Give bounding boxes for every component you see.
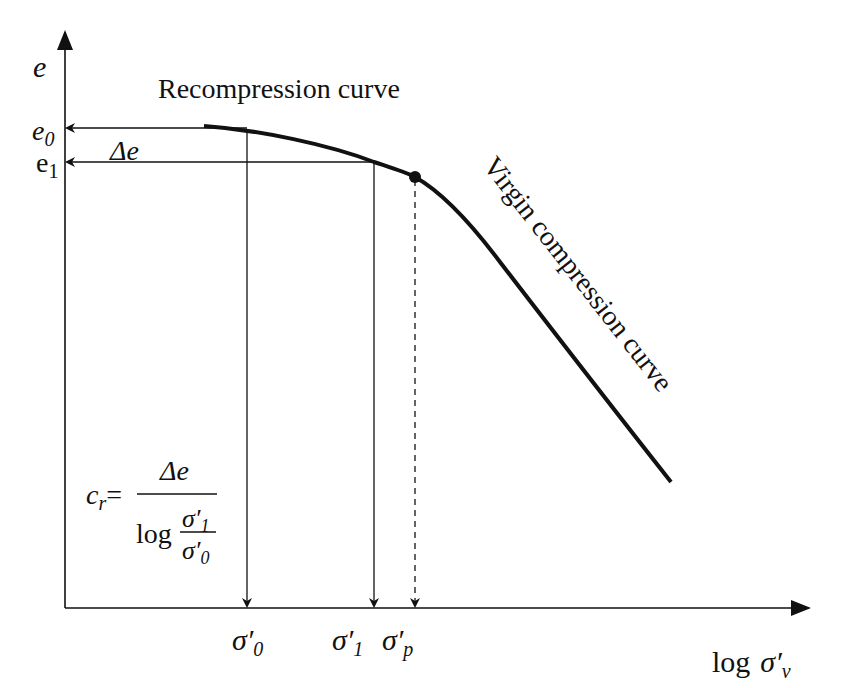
sigma0-label: σ′0	[232, 623, 263, 660]
y-axis-label: e	[33, 50, 46, 83]
x-axis-label: logσ′v	[712, 645, 791, 682]
delta-e-label: Δe	[109, 135, 139, 166]
preconsolidation-point	[409, 171, 421, 183]
sigma1-label: σ′1	[332, 623, 363, 660]
formula-log: log	[136, 518, 172, 549]
sigmap-label: σ′p	[382, 623, 413, 661]
formula-numerator: Δe	[159, 455, 189, 486]
cr-formula: cr= Δe log σ′1 σ′0	[86, 455, 217, 568]
e0-label: e0	[32, 115, 54, 150]
formula-inner-denominator: σ′0	[182, 536, 210, 568]
e1-label: e1	[36, 147, 58, 182]
formula-lhs: cr=	[86, 479, 122, 514]
recompression-curve-label: Recompression curve	[158, 73, 400, 104]
compression-curve-diagram: e e0 e1 Δe Recompression curve Virgin co…	[0, 0, 852, 688]
formula-inner-numerator: σ′1	[182, 504, 210, 536]
